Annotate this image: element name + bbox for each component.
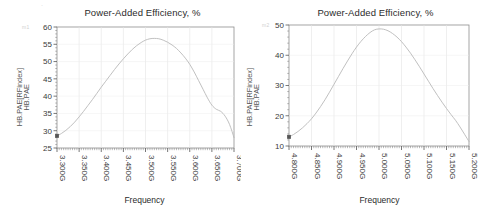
x-axis-tick-label: 5.200G bbox=[470, 153, 479, 179]
chart-panel-left: Power-Added Efficiency, % m1 HB.PAE[RFin… bbox=[0, 0, 241, 213]
y-axis-tick-label: 20 bbox=[275, 112, 284, 121]
x-axis-label-left: Frequency bbox=[0, 195, 265, 205]
data-point-marker[interactable] bbox=[55, 134, 59, 138]
x-axis-tick-label: 3.650G bbox=[213, 155, 222, 181]
y-axis-tick-label: 30 bbox=[43, 127, 52, 136]
plot-area-right: 10203040504.800G4.850G4.900G4.950G5.000G… bbox=[241, 0, 482, 213]
x-axis-tick-label: 3.350G bbox=[80, 155, 89, 181]
x-axis-tick-label: 3.300G bbox=[58, 155, 67, 181]
x-axis-tick-label: 5.100G bbox=[425, 153, 434, 179]
y-axis-tick-label: 25 bbox=[43, 144, 52, 153]
x-axis-label-right: Frequency bbox=[241, 195, 482, 205]
y-axis-tick-label: 50 bbox=[43, 57, 52, 66]
x-axis-tick-label: 3.450G bbox=[124, 155, 133, 181]
x-axis-tick-label: 3.500G bbox=[147, 155, 156, 181]
y-axis-tick-label: 50 bbox=[275, 21, 284, 30]
y-axis-tick-label: 55 bbox=[43, 40, 52, 49]
y-axis-tick-label: 35 bbox=[43, 109, 52, 118]
plot-area-left: 25303540455055603.300G3.350G3.400G3.450G… bbox=[0, 0, 241, 213]
x-axis-tick-label: 5.000G bbox=[380, 153, 389, 179]
y-axis-tick-label: 30 bbox=[275, 81, 284, 90]
x-axis-tick-label: 3.550G bbox=[169, 155, 178, 181]
y-axis-tick-label: 40 bbox=[43, 92, 52, 101]
y-axis-tick-label: 45 bbox=[43, 75, 52, 84]
y-axis-tick-label: 60 bbox=[43, 23, 52, 32]
x-axis-tick-label: 5.150G bbox=[448, 153, 457, 179]
x-axis-tick-label: 4.900G bbox=[335, 153, 344, 179]
y-axis-tick-label: 40 bbox=[275, 51, 284, 60]
chart-panel-right: Power-Added Efficiency, % m2 HB.PAE[RFin… bbox=[241, 0, 482, 213]
data-point-marker[interactable] bbox=[287, 135, 291, 139]
x-axis-tick-label: 5.050G bbox=[403, 153, 412, 179]
y-axis-tick-label: 10 bbox=[275, 142, 284, 151]
x-axis-tick-label: 4.950G bbox=[358, 153, 367, 179]
x-axis-tick-label: 4.850G bbox=[313, 153, 322, 179]
x-axis-tick-label: 3.400G bbox=[102, 155, 111, 181]
x-axis-tick-label: 4.800G bbox=[290, 153, 299, 179]
screenshot-root: · Power-Added Efficiency, % m1 HB.PAE[RF… bbox=[0, 0, 482, 213]
x-axis-tick-label: 3.600G bbox=[191, 155, 200, 181]
